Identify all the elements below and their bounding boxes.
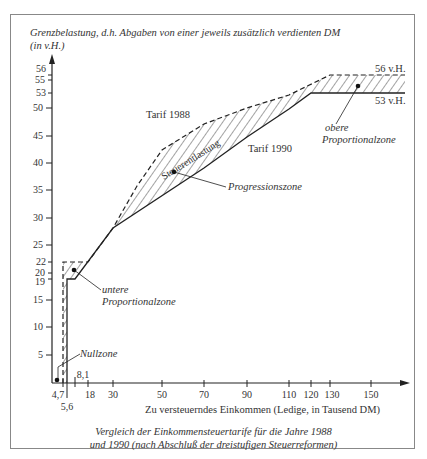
x-label-8-1: 8,1 bbox=[77, 369, 90, 380]
x-label-110: 110 bbox=[282, 389, 297, 400]
x-label-18: 18 bbox=[85, 389, 95, 400]
y-label-35: 35 bbox=[33, 184, 43, 195]
nullzone-label: Nullzone bbox=[79, 348, 118, 359]
x-axis-label: Zu versteuerndes Einkommen (Ledige, in T… bbox=[145, 404, 380, 415]
x-axis-arrow-icon bbox=[400, 380, 410, 386]
y-label-56: 56 bbox=[36, 63, 46, 74]
tarif-1988-label: Tarif 1988 bbox=[146, 109, 190, 120]
x-label-4-7: 4,7 bbox=[52, 389, 65, 400]
tarif-1990-label: Tarif 1990 bbox=[248, 143, 292, 154]
y-label-40: 40 bbox=[33, 157, 43, 168]
y-label-10: 10 bbox=[33, 321, 43, 332]
nullzone-dot bbox=[55, 378, 60, 383]
untere-label-2: Proportionalzone bbox=[101, 296, 176, 307]
x-label-150: 150 bbox=[364, 389, 379, 400]
56-vh-label: 56 v.H. bbox=[375, 63, 406, 74]
x-label-30: 30 bbox=[108, 389, 118, 400]
y-label-25: 25 bbox=[33, 239, 43, 250]
x-label-5-6: 5,6 bbox=[61, 401, 74, 412]
untere-label-1: untere bbox=[102, 284, 129, 295]
caption-line-2: und 1990 (nach Abschluß der dreistufigen… bbox=[0, 438, 427, 451]
y-label-5: 5 bbox=[38, 349, 43, 360]
chart-caption: Vergleich der Einkommensteuertarife für … bbox=[0, 425, 427, 451]
x-label-120: 120 bbox=[304, 389, 319, 400]
x-label-90: 90 bbox=[242, 389, 252, 400]
y-label-22: 22 bbox=[36, 256, 46, 267]
caption-line-1: Vergleich der Einkommensteuertarife für … bbox=[0, 425, 427, 438]
y-label-50: 50 bbox=[33, 102, 43, 113]
y-label-55: 55 bbox=[35, 74, 45, 85]
obere-dot bbox=[356, 84, 361, 89]
untere-dot bbox=[72, 268, 77, 273]
chart-plot: 56 55 53 50 45 40 35 30 25 22 20 19 15 1… bbox=[0, 0, 427, 459]
x-label-70: 70 bbox=[199, 389, 209, 400]
relief-area bbox=[63, 75, 405, 383]
53-vh-label: 53 v.H. bbox=[375, 95, 406, 106]
y-label-19: 19 bbox=[35, 276, 45, 287]
obere-label-2: Proportionalzone bbox=[321, 134, 396, 145]
progression-dot bbox=[172, 170, 177, 175]
y-label-53: 53 bbox=[36, 87, 46, 98]
progressionszone-label: Progressionszone bbox=[227, 181, 302, 192]
x-label-130: 130 bbox=[325, 389, 340, 400]
y-label-15: 15 bbox=[33, 294, 43, 305]
x-label-50: 50 bbox=[157, 389, 167, 400]
y-axis-arrow-icon bbox=[49, 54, 55, 64]
y-ticks bbox=[46, 75, 52, 355]
y-label-45: 45 bbox=[33, 130, 43, 141]
y-label-30: 30 bbox=[33, 212, 43, 223]
obere-label-1: obere bbox=[325, 122, 349, 133]
